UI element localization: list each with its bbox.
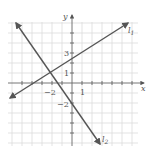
x-tick-label-1: 1 (80, 88, 85, 97)
coordinate-plane: x y −2 1 3 1 −2 l1 l2 (0, 0, 153, 154)
y-tick-label-neg2: −2 (57, 100, 69, 109)
line-l1 (10, 23, 128, 98)
x-axis-label: x (141, 84, 146, 93)
line-l1-label: l1 (128, 26, 134, 36)
y-tick-label-3: 3 (64, 49, 69, 58)
x-tick-label-neg2: −2 (44, 88, 56, 97)
y-axis-label: y (62, 12, 68, 21)
line-l2-label: l2 (102, 135, 109, 145)
y-tick-label-1: 1 (64, 69, 69, 78)
line-l2 (16, 23, 100, 144)
axes (8, 15, 144, 146)
